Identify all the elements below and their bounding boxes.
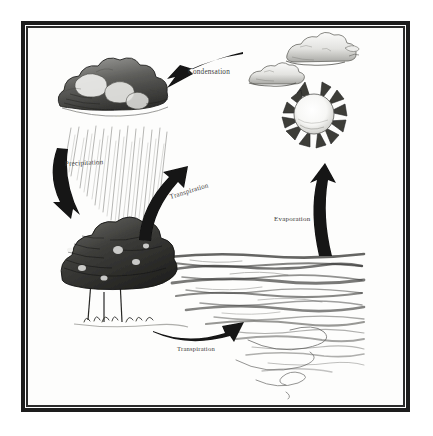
label-transpiration-bottom: Transpiration xyxy=(177,345,215,352)
evaporation-arrow xyxy=(310,163,336,256)
rain-cloud xyxy=(58,58,168,116)
transpiration-arrow-middle xyxy=(139,166,188,241)
water-cycle-figure: Condensation Precipitation Transpiration… xyxy=(0,0,433,436)
cloud-small xyxy=(249,63,305,86)
sun xyxy=(282,82,347,148)
label-evaporation: Evaporation xyxy=(274,215,310,223)
water xyxy=(168,254,364,399)
water-cycle-illustration xyxy=(0,0,433,436)
transpiration-arrow-bottom xyxy=(153,322,244,342)
label-condensation: Condensation xyxy=(188,68,230,76)
trees xyxy=(61,217,188,327)
